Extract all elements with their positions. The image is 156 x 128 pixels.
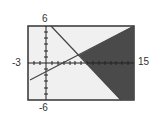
graph <box>0 0 156 128</box>
y-min-label: -6 <box>39 103 48 113</box>
y-max-label: 6 <box>42 14 48 24</box>
x-max-label: 15 <box>138 57 149 67</box>
x-min-label: -3 <box>12 58 21 68</box>
